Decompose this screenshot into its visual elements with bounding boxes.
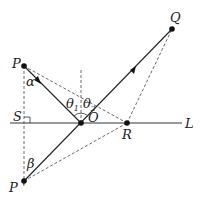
label-s: S [13, 109, 22, 124]
theta2-symbol: θ [83, 96, 91, 111]
label-p: P [11, 56, 21, 71]
label-q: Q [170, 10, 181, 25]
label-theta2: θ2 [83, 96, 96, 113]
point-r [124, 120, 130, 126]
point-p [21, 63, 27, 69]
dashed-r-q [127, 29, 172, 123]
label-beta: β [26, 156, 35, 171]
label-r: R [121, 127, 132, 142]
theta1-symbol: θ [66, 96, 74, 111]
arrow-icon-o-q [130, 66, 136, 74]
point-o [78, 120, 84, 126]
label-alpha: α [26, 74, 35, 89]
point-q [169, 26, 175, 32]
label-l: L [184, 116, 194, 131]
dashed-pprime-r [24, 123, 127, 181]
ray-pprime-q [24, 29, 172, 181]
right-angle-marker [24, 117, 30, 123]
label-theta1: θ1 [66, 96, 79, 113]
theta1-subscript: 1 [74, 104, 79, 113]
label-pprime: P ' [8, 180, 25, 195]
reflection-diagram: P Q O R S P ' L α β θ1 θ2 [0, 0, 201, 206]
theta2-subscript: 2 [90, 104, 96, 113]
